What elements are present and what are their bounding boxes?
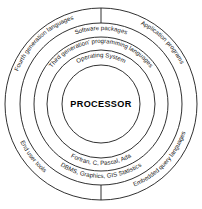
onion-diagram: PROCESSOR Operating System Third generat… xyxy=(0,0,202,209)
end-user-tools-label: End user tools xyxy=(19,139,48,173)
processor-core-label: PROCESSOR xyxy=(70,99,131,109)
fourth-generation-languages-label: Fourth generation languages xyxy=(13,14,75,72)
onion-diagram-canvas: PROCESSOR Operating System Third generat… xyxy=(0,0,202,209)
